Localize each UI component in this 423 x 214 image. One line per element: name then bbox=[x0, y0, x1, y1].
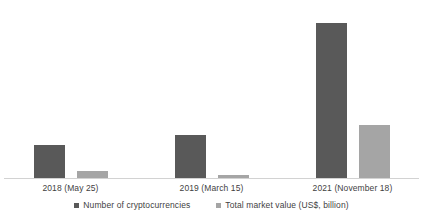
bar-groups: 1,623 335.5 2,112 140.5 bbox=[0, 0, 423, 178]
bar-wrapper: 2,112 bbox=[175, 0, 206, 178]
category-axis-line bbox=[4, 178, 419, 179]
legend-label: Number of cryptocurrencies bbox=[83, 200, 190, 211]
bar-chart: 1,623 335.5 2,112 140.5 bbox=[0, 0, 423, 214]
category-label-2021: 2021 (November 18) bbox=[282, 182, 423, 194]
bar-group-2018: 1,623 335.5 bbox=[0, 0, 141, 178]
category-axis-labels: 2018 (May 25) 2019 (March 15) 2021 (Nove… bbox=[0, 181, 423, 195]
bar-cryptocurrencies-2018[interactable] bbox=[34, 145, 65, 178]
bar-wrapper: 1,623 bbox=[34, 0, 65, 178]
bar-cryptocurrencies-2019[interactable] bbox=[175, 135, 206, 178]
legend-item-market-value[interactable]: Total market value (US$, billion) bbox=[216, 200, 348, 211]
bar-market-value-2021[interactable] bbox=[359, 125, 390, 178]
legend-label: Total market value (US$, billion) bbox=[225, 200, 348, 211]
category-label-2019: 2019 (March 15) bbox=[141, 182, 282, 194]
bar-wrapper: 335.5 bbox=[77, 0, 108, 178]
bar-cryptocurrencies-2021[interactable] bbox=[316, 23, 347, 178]
square-marker-light-icon bbox=[216, 203, 221, 208]
bar-market-value-2018[interactable] bbox=[77, 171, 108, 178]
category-label-2018: 2018 (May 25) bbox=[0, 182, 141, 194]
chart-legend: Number of cryptocurrencies Total market … bbox=[0, 198, 423, 212]
bar-wrapper: 2,590 bbox=[359, 0, 390, 178]
plot-area: 1,623 335.5 2,112 140.5 bbox=[0, 0, 423, 179]
legend-item-cryptocurrencies[interactable]: Number of cryptocurrencies bbox=[74, 200, 190, 211]
bar-wrapper: 7,551 bbox=[316, 0, 347, 178]
bar-wrapper: 140.5 bbox=[218, 0, 249, 178]
bar-group-2021: 7,551 2,590 bbox=[282, 0, 423, 178]
bar-group-2019: 2,112 140.5 bbox=[141, 0, 282, 178]
square-marker-dark-icon bbox=[74, 203, 79, 208]
